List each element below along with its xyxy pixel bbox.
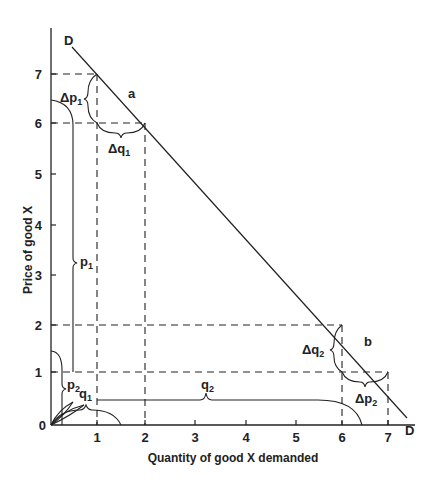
delta-p1-label: Δp1	[60, 90, 82, 107]
delta-p2-label: Δp2	[355, 391, 377, 408]
y-tick-label: 3	[35, 268, 42, 283]
segment-b-label: b	[364, 334, 372, 349]
x-tick-label: 5	[292, 430, 299, 445]
y-tick-label: 7	[35, 67, 42, 82]
x-tick-label: 2	[141, 430, 148, 445]
delta-q2-label: Δq2	[302, 342, 324, 359]
delta-q1-label: Δq1	[108, 141, 130, 158]
q2-label: q2	[201, 377, 214, 394]
y-tick-label: 5	[35, 167, 42, 182]
x-tick-label: 1	[93, 430, 100, 445]
y-tick-label: 6	[35, 116, 42, 131]
y-axis-title: Price of good X	[21, 206, 35, 294]
x-axis-title: Quantity of good X demanded	[148, 451, 319, 465]
p1-label: p1	[80, 254, 93, 271]
y-tick-label: 4	[35, 218, 43, 233]
x-tick-label: 6	[338, 430, 345, 445]
y-tick-label: 1	[35, 365, 42, 380]
dashed-guides	[51, 74, 388, 425]
demand-elasticity-chart: 7 6 5 4 3 2 1 0 1 2 3 4 5 6 7 Quantity o…	[0, 0, 438, 484]
x-tick-label: 3	[191, 430, 198, 445]
x-ticks	[97, 420, 388, 425]
segment-a-label: a	[128, 86, 136, 101]
demand-label-bottom: D	[405, 423, 414, 438]
y-ticks	[51, 74, 56, 372]
y-tick-label: 2	[35, 318, 42, 333]
y-tick-label: 0	[39, 418, 46, 433]
demand-label-top: D	[64, 33, 73, 48]
demand-curve	[72, 47, 407, 418]
x-tick-label: 7	[384, 430, 391, 445]
q1-label: q1	[79, 386, 92, 403]
x-tick-label: 4	[242, 430, 250, 445]
